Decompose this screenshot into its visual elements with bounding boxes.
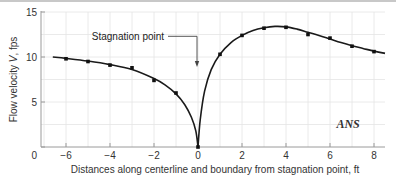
stagnation-point-label: Stagnation point: [92, 31, 165, 42]
data-point: [130, 66, 134, 70]
tick-labels: −6−4−202468051015: [26, 7, 377, 162]
x-tick-label: 8: [371, 150, 377, 161]
x-tick-label: −2: [148, 150, 160, 161]
data-point: [218, 53, 222, 57]
y-axis-title: Flow velocity V, fps: [8, 37, 19, 123]
x-tick-label: 4: [283, 150, 289, 161]
stagnation-point-annotation: Stagnation point: [92, 31, 199, 67]
ans-label: ANS: [335, 117, 360, 131]
data-point: [86, 60, 90, 64]
annotation-leader-line: [168, 36, 197, 62]
x-tick-label: 0: [195, 150, 201, 161]
y-tick-label: 0: [31, 150, 37, 161]
data-point: [350, 44, 354, 48]
data-point: [262, 26, 266, 30]
x-tick-label: 6: [327, 150, 333, 161]
x-axis-title: Distances along centerline and boundary …: [71, 164, 360, 175]
data-point: [64, 57, 68, 61]
data-point: [284, 26, 288, 30]
arrowhead-icon: [195, 61, 199, 67]
data-point: [108, 63, 112, 67]
data-point: [306, 33, 310, 37]
velocity-curve: [53, 26, 385, 147]
x-tick-label: 2: [239, 150, 245, 161]
data-point: [328, 36, 332, 40]
y-tick-label: 15: [26, 7, 38, 18]
flow-velocity-chart: −6−4−202468051015 Stagnation point ANS D…: [0, 0, 396, 182]
y-tick-label: 5: [31, 97, 37, 108]
data-point: [240, 34, 244, 38]
y-tick-label: 10: [26, 52, 38, 63]
data-point: [174, 91, 178, 95]
data-point: [196, 145, 200, 149]
x-tick-label: −6: [60, 150, 72, 161]
data-point: [152, 79, 156, 83]
data-point: [372, 50, 376, 54]
x-tick-label: −4: [104, 150, 116, 161]
